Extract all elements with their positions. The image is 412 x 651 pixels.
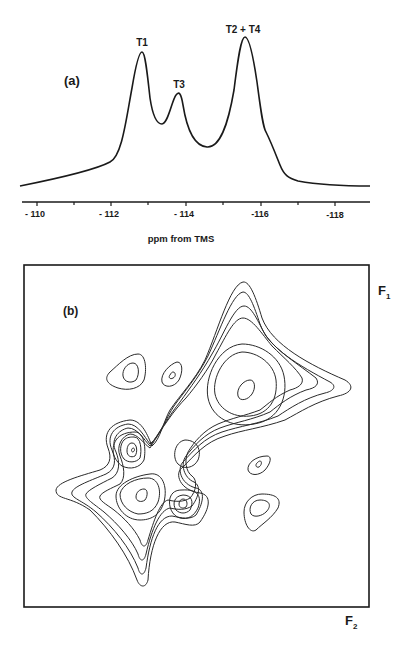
x-axis-title: ppm from TMS	[148, 233, 215, 244]
x-tick-label: - 114	[174, 209, 194, 219]
spectrum-panel: (a) T1 T3 T2 + T4 - 110 - 112 - 114 -116…	[20, 24, 370, 244]
f2-axis-label: F2	[345, 613, 358, 631]
x-tick-label: -116	[251, 209, 269, 219]
f1-axis-label: F1	[378, 283, 391, 301]
peak-label-t2-t4: T2 + T4	[226, 24, 261, 35]
peak-label-t3: T3	[173, 79, 185, 90]
contour-panel: (b) F1 F2	[24, 265, 391, 631]
x-tick-label: - 110	[25, 209, 45, 219]
panel-label-b: (b)	[63, 304, 78, 318]
x-tick-label: -118	[326, 210, 344, 220]
panel-label-a: (a)	[64, 73, 80, 88]
x-tick-label: - 112	[99, 209, 119, 219]
spectrum-curve	[20, 37, 370, 186]
contour-lines	[56, 282, 351, 586]
peak-label-t1: T1	[136, 37, 148, 48]
figure-canvas: (a) T1 T3 T2 + T4 - 110 - 112 - 114 -116…	[0, 0, 412, 651]
